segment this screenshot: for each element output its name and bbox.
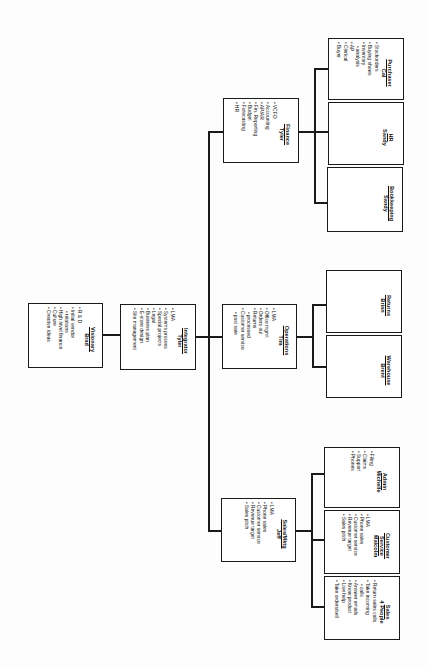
node-person: Jeff bbox=[276, 502, 282, 562]
node-title: Returns bbox=[386, 274, 392, 333]
list-item: Customer service bbox=[256, 502, 262, 562]
node-title: Warehouse bbox=[386, 339, 392, 398]
list-item: R & D bbox=[76, 307, 82, 368]
list-item: Live help bbox=[340, 580, 346, 640]
node-person: Tim bbox=[278, 308, 284, 369]
list-item: relations bbox=[64, 311, 70, 368]
list-item: Culture bbox=[52, 307, 58, 368]
connector-sales-mktg-bus bbox=[296, 530, 312, 532]
list-item: processed bbox=[246, 312, 252, 369]
list-item: Phone sales bbox=[359, 514, 365, 574]
node-finance: Finance Tyler VCFO Accounting AP/AR Fin.… bbox=[223, 98, 299, 163]
node-title: Customer Service bbox=[379, 529, 391, 563]
node-warehouse: Warehouse Brent bbox=[326, 335, 402, 398]
list-item: Revenue target bbox=[250, 502, 256, 562]
connector-trunk-finance bbox=[208, 131, 223, 133]
list-item: Clerical bbox=[342, 42, 348, 100]
node-title: Sales bbox=[385, 580, 391, 640]
connector-operations-bus bbox=[297, 336, 313, 338]
node-title: Sales/Mktg bbox=[282, 502, 288, 562]
list-item: Special projects bbox=[157, 308, 163, 370]
node-person: Tyler bbox=[177, 308, 183, 370]
list-item: LMA bbox=[268, 502, 274, 562]
list-item: Phone sales bbox=[262, 502, 268, 562]
node-person: Michelle bbox=[376, 451, 382, 508]
node-sales-mktg: Sales/Mktg Jeff LMA Phone sales Customer… bbox=[221, 498, 296, 562]
list-item: Customer service bbox=[239, 308, 245, 369]
list-item: Returns bbox=[252, 308, 258, 369]
responsibility-list: LMA Phone sales Customer service Revenue… bbox=[244, 502, 275, 562]
list-item: Know product bbox=[347, 580, 353, 640]
node-title: Operations bbox=[284, 308, 290, 369]
list-item: Buyer bbox=[336, 42, 342, 100]
node-returns: Returns Brian bbox=[326, 270, 402, 333]
list-item: Buying shows bbox=[367, 42, 373, 100]
node-integrator: Integrator Tyler LMA Systems process Spe… bbox=[120, 304, 196, 370]
node-title: Integrator bbox=[183, 308, 189, 370]
node-person: Tyler bbox=[279, 102, 285, 163]
list-item: Fin. Reporting bbox=[253, 102, 259, 163]
connector-sales bbox=[311, 606, 324, 608]
list-item: LMA bbox=[169, 308, 175, 370]
list-item: Accounting bbox=[265, 102, 271, 163]
node-sales: Sales 4 People Return sales calls Take i… bbox=[324, 576, 400, 640]
list-item: Customer service bbox=[353, 514, 359, 574]
list-item: Sales pitch bbox=[340, 514, 346, 574]
trunk-line bbox=[208, 131, 210, 531]
finance-bus bbox=[314, 68, 316, 203]
responsibility-list: LMA Office mgmt Orders out Returns proce… bbox=[233, 308, 276, 369]
list-item: Take orders/sell bbox=[334, 580, 340, 640]
responsibility-list: LMA Systems process Special projects Leg… bbox=[132, 308, 175, 370]
node-person: Sandy bbox=[383, 171, 389, 232]
list-item: Stockorders bbox=[373, 42, 379, 100]
list-item: Phones bbox=[350, 451, 356, 508]
list-item: Creative ideas bbox=[45, 307, 51, 368]
node-title: Visionary bbox=[90, 307, 96, 368]
list-item: Answer emails bbox=[353, 580, 359, 640]
connector-returns bbox=[312, 304, 326, 306]
list-item: Systems process bbox=[163, 308, 169, 370]
node-visionary: Visionary Brad R & D Initial vendor rela… bbox=[28, 303, 103, 368]
list-item: Site management bbox=[132, 308, 138, 370]
node-customer-service: Customer Service Malcolm LMA Phone sales… bbox=[324, 510, 400, 574]
connector-finance-bus bbox=[299, 131, 315, 133]
list-item: Forecasting bbox=[240, 102, 246, 163]
list-item: Support bbox=[356, 451, 362, 508]
responsibility-list: VCFO Accounting AP/AR Fin. Reporting Bud… bbox=[234, 102, 277, 163]
responsibility-list: Stockorders Buying shows Inventory analy… bbox=[336, 42, 379, 100]
responsibility-list: R & D Initial vendor relations High leve… bbox=[45, 307, 82, 368]
list-item: Business plan bbox=[145, 308, 151, 370]
list-item: LMA bbox=[365, 514, 371, 574]
node-person: Brian bbox=[380, 274, 386, 333]
node-person: Brad bbox=[84, 307, 90, 368]
node-operations: Operations Tim LMA Office mgmt Orders ou… bbox=[222, 304, 297, 369]
connector-warehouse bbox=[312, 366, 326, 368]
connector-hr bbox=[314, 131, 328, 133]
connector-admin bbox=[311, 473, 324, 475]
node-title: Admin bbox=[382, 451, 388, 508]
node-title: HR bbox=[388, 106, 394, 165]
node-purchaser: Purchaser Cal Stockorders Buying shows I… bbox=[328, 38, 404, 100]
list-item: Take incoming bbox=[365, 580, 371, 640]
list-item: Budget bbox=[247, 102, 253, 163]
list-item: Claims bbox=[362, 451, 368, 508]
list-item: Revenue target bbox=[347, 514, 353, 574]
list-item: Filing bbox=[368, 451, 374, 508]
list-item: LMA bbox=[270, 308, 276, 369]
node-title: Purchaser bbox=[387, 42, 393, 100]
list-item: HR bbox=[234, 102, 240, 163]
node-bookkeeping: Bookkeeping Sandy bbox=[327, 167, 403, 232]
node-person: Cal bbox=[381, 42, 387, 100]
connector-visionary-integrator bbox=[102, 334, 120, 336]
node-person: Sandy bbox=[382, 106, 388, 165]
responsibility-list: Return sales calls Take incoming calls A… bbox=[334, 580, 377, 640]
list-item: VCFO bbox=[271, 102, 277, 163]
list-item: AP/AR bbox=[259, 102, 265, 163]
list-item: Office mgmt bbox=[264, 308, 270, 369]
list-item: analysis bbox=[355, 46, 361, 100]
node-admin: Admin Michelle Filing Claims Support Pho… bbox=[324, 447, 400, 508]
list-item: E-store design bbox=[138, 308, 144, 370]
list-item: Return sales calls bbox=[371, 580, 377, 640]
node-person: Brent bbox=[380, 339, 386, 398]
connector-bookkeeping bbox=[314, 202, 328, 204]
